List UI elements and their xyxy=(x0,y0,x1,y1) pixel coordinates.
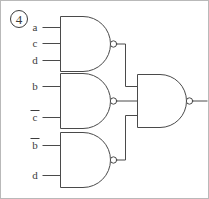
figure-number-badge: 4 xyxy=(11,11,28,28)
nand-gate-top-group: a c d xyxy=(32,17,116,72)
input-label-d-top: d xyxy=(32,54,38,66)
input-label-bbar-bottom: b xyxy=(32,139,38,151)
nand-gate-middle-body xyxy=(61,74,111,129)
nand-gate-top-body xyxy=(61,17,111,72)
nand-gate-bottom-body xyxy=(61,133,111,188)
nand-gate-output-body xyxy=(138,75,187,128)
nand-gate-bottom-group: b d xyxy=(31,133,117,188)
interconnect-wires xyxy=(117,44,138,160)
logic-circuit-figure: 4 a c d b c xyxy=(0,0,209,199)
wire-top-to-output xyxy=(117,44,138,87)
input-label-d-bottom: d xyxy=(32,169,38,181)
nand-gate-middle-group: b c xyxy=(31,74,117,129)
input-label-b-middle: b xyxy=(32,80,38,92)
inversion-bubble-middle xyxy=(110,98,116,104)
nand-gate-output-group xyxy=(138,75,207,128)
wire-bottom-to-output xyxy=(117,116,138,161)
input-label-cbar-middle: c xyxy=(33,111,38,123)
inversion-bubble-top xyxy=(110,41,116,47)
circuit-diagram-canvas: 4 a c d b c xyxy=(1,1,209,199)
inversion-bubble-output xyxy=(186,98,192,104)
input-label-c-top: c xyxy=(33,37,38,49)
input-label-a-top: a xyxy=(33,21,38,33)
inversion-bubble-bottom xyxy=(110,157,116,163)
figure-number-label: 4 xyxy=(16,12,23,27)
